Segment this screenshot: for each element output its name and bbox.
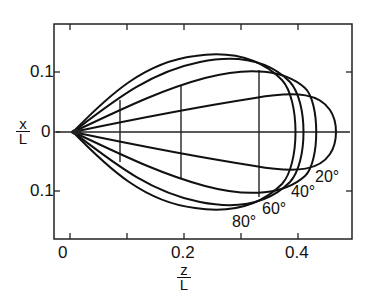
x-axis-label-denominator: L [177,278,191,292]
x-tick-label-0: 0 [58,243,67,263]
y-axis-label: x L [16,117,30,146]
y-tick-label-top: 0.1 [30,62,54,82]
cross-section-lines [120,70,259,197]
x-tick-label-0-2: 0.2 [171,243,195,263]
label-40deg: 40° [291,183,315,201]
x-tick-label-0-4: 0.4 [285,243,309,263]
label-80deg: 80° [232,213,256,231]
y-tick-label-zero: 0 [41,122,50,142]
label-20deg: 20° [315,168,339,186]
label-60deg: 60° [262,200,286,218]
y-axis-label-denominator: L [16,132,30,146]
x-axis-label: z L [177,263,191,292]
y-tick-label-bottom: 0.1 [30,181,54,201]
origin-marker [71,129,81,135]
